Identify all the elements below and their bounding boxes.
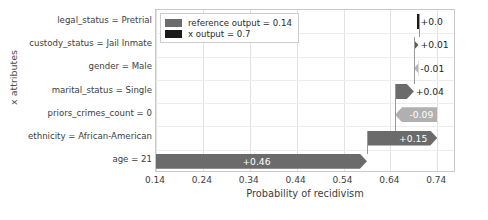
y-tick-label: marital_status = Single bbox=[52, 86, 152, 95]
bar-connector bbox=[419, 14, 420, 37]
bar-connector bbox=[414, 37, 415, 60]
x-axis-tick-labels: 0.140.240.340.440.540.640.74 bbox=[0, 175, 488, 189]
gridline-horizontal bbox=[156, 103, 454, 104]
bar-value-label: +0.46 bbox=[156, 154, 357, 169]
x-tick-label: 0.54 bbox=[332, 175, 352, 185]
bar-value-label: +0.15 bbox=[367, 131, 427, 146]
y-tick-label: priors_crimes_count = 0 bbox=[48, 109, 152, 118]
bar bbox=[395, 84, 414, 99]
legend-item: reference output = 0.14 bbox=[165, 17, 292, 28]
x-axis-label: Probability of recidivism bbox=[155, 188, 455, 199]
x-tick-label: 0.14 bbox=[145, 175, 165, 185]
x-tick-label: 0.24 bbox=[192, 175, 212, 185]
y-tick-label: gender = Male bbox=[89, 62, 152, 71]
gridline-horizontal bbox=[156, 126, 454, 127]
gridline-horizontal bbox=[156, 80, 454, 81]
y-tick-label: ethnicity = African-American bbox=[28, 132, 152, 141]
bar-value-label: +0.04 bbox=[416, 84, 444, 99]
bar-connector bbox=[395, 107, 396, 130]
y-tick-label: legal_status = Pretrial bbox=[57, 16, 152, 25]
bar-value-label: +0.01 bbox=[421, 37, 449, 52]
legend-swatch bbox=[165, 19, 182, 27]
legend-label: x output = 0.7 bbox=[188, 29, 251, 39]
bar-connector bbox=[414, 61, 415, 84]
x-tick-label: 0.34 bbox=[239, 175, 259, 185]
x-tick-label: 0.74 bbox=[426, 175, 446, 185]
legend-swatch bbox=[165, 30, 182, 38]
x-tick-label: 0.64 bbox=[379, 175, 399, 185]
bar-value-label: -0.01 bbox=[421, 61, 445, 76]
y-tick-label: age = 21 bbox=[112, 155, 152, 164]
legend: reference output = 0.14x output = 0.7 bbox=[160, 13, 299, 43]
bar-body bbox=[395, 84, 414, 99]
gridline-horizontal bbox=[156, 150, 454, 151]
bar-value-label: +0.0 bbox=[421, 14, 443, 29]
bar-value-label: -0.09 bbox=[403, 107, 433, 122]
chart-figure: x attributes legal_status = Pretrialcust… bbox=[0, 0, 488, 220]
legend-item: x output = 0.7 bbox=[165, 28, 292, 39]
bar-connector bbox=[395, 84, 396, 107]
legend-label: reference output = 0.14 bbox=[188, 18, 292, 28]
x-tick-label: 0.44 bbox=[286, 175, 306, 185]
y-tick-label: custody_status = Jail Inmate bbox=[29, 39, 152, 48]
gridline-horizontal bbox=[156, 57, 454, 58]
